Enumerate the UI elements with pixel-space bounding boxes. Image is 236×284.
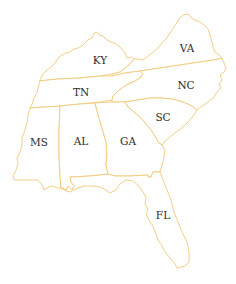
- label-ky: KY: [93, 54, 109, 66]
- label-va: VA: [179, 42, 195, 54]
- label-al: AL: [73, 135, 89, 147]
- label-ga: GA: [120, 135, 136, 147]
- label-ms: MS: [30, 136, 48, 148]
- label-tn: TN: [73, 86, 89, 98]
- state-mississippi[interactable]: [13, 106, 61, 190]
- southeast-us-map: KY VA TN NC SC MS AL GA FL: [0, 0, 236, 284]
- label-nc: NC: [177, 79, 194, 91]
- label-fl: FL: [156, 209, 170, 221]
- label-sc: SC: [155, 111, 170, 123]
